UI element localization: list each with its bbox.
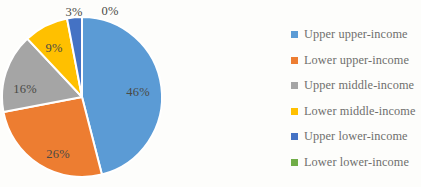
legend-swatch-icon	[291, 133, 298, 140]
legend-item-label: Lower middle-income	[304, 104, 416, 119]
legend-item-upper-upper-income[interactable]: Upper upper-income	[291, 22, 421, 48]
legend-swatch-icon	[291, 57, 298, 64]
legend-swatch-icon	[291, 159, 298, 166]
pie-svg	[0, 0, 230, 187]
legend-item-label: Upper lower-income	[304, 129, 408, 144]
legend-item-label: Upper middle-income	[304, 78, 414, 93]
legend-item-lower-upper-income[interactable]: Lower upper-income	[291, 48, 421, 74]
legend-item-label: Lower lower-income	[304, 155, 409, 170]
legend-item-lower-middle-income[interactable]: Lower middle-income	[291, 99, 421, 125]
legend-item-lower-lower-income[interactable]: Lower lower-income	[291, 150, 421, 176]
legend-item-label: Upper upper-income	[304, 27, 408, 42]
legend-swatch-icon	[291, 82, 298, 89]
legend-item-label: Lower upper-income	[304, 53, 409, 68]
pie-chart-figure: 46% 26% 16% 9% 3% 0% Upper upper-income …	[0, 0, 421, 187]
legend-swatch-icon	[291, 31, 298, 38]
legend-swatch-icon	[291, 108, 298, 115]
legend-item-upper-lower-income[interactable]: Upper lower-income	[291, 124, 421, 150]
chart-legend: Upper upper-income Lower upper-income Up…	[291, 22, 421, 175]
chart-plot-area: 46% 26% 16% 9% 3% 0%	[0, 0, 230, 187]
legend-item-upper-middle-income[interactable]: Upper middle-income	[291, 73, 421, 99]
